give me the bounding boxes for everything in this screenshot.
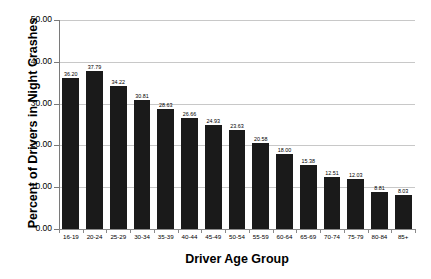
x-tick-mark <box>225 229 226 233</box>
x-tick-mark <box>59 229 60 233</box>
x-tick-label: 45-49 <box>201 233 225 241</box>
bar[interactable] <box>134 100 151 229</box>
y-tick-mark <box>54 104 59 105</box>
bar-slot: 34.22 <box>106 20 130 229</box>
x-tick-label: 35-39 <box>154 233 178 241</box>
bar[interactable] <box>395 195 412 229</box>
bar-slot: 18.00 <box>273 20 297 229</box>
gridline <box>59 229 415 230</box>
y-tick-mark <box>54 187 59 188</box>
bar-slot: 12.03 <box>344 20 368 229</box>
bar-value-label: 18.00 <box>273 147 297 153</box>
bar[interactable] <box>347 179 364 229</box>
bar-value-label: 37.79 <box>83 64 107 70</box>
y-tick-label: 10.00 <box>6 182 52 191</box>
x-tick-mark <box>178 229 179 233</box>
bar[interactable] <box>181 118 198 229</box>
y-tick-label: 30.00 <box>6 99 52 108</box>
x-tick-label: 30-34 <box>130 233 154 241</box>
x-tick-mark <box>106 229 107 233</box>
x-axis-tick-labels: 16-1920-2425-2930-3435-3940-4445-4950-54… <box>59 233 415 245</box>
bar[interactable] <box>205 125 222 229</box>
bar[interactable] <box>157 109 174 229</box>
y-tick-label: 0.00 <box>6 224 52 233</box>
x-tick-mark <box>83 229 84 233</box>
bar[interactable] <box>62 78 79 229</box>
x-tick-mark <box>201 229 202 233</box>
x-tick-label: 16-19 <box>59 233 83 241</box>
x-tick-mark <box>368 229 369 233</box>
bar-slot: 26.66 <box>178 20 202 229</box>
x-tick-label: 65-69 <box>296 233 320 241</box>
bar-value-label: 30.81 <box>130 93 154 99</box>
bar-slot: 12.51 <box>320 20 344 229</box>
bar-value-label: 8.81 <box>368 185 392 191</box>
bar-slot: 15.38 <box>296 20 320 229</box>
bar-chart: Percent of Drivers in Night Crashes 0.00… <box>0 0 431 279</box>
bar-slot: 8.03 <box>391 20 415 229</box>
bar[interactable] <box>276 154 293 229</box>
x-tick-label: 20-24 <box>83 233 107 241</box>
y-tick-label: 20.00 <box>6 140 52 149</box>
x-tick-label: 25-29 <box>106 233 130 241</box>
y-tick-mark <box>54 145 59 146</box>
bar[interactable] <box>371 192 388 229</box>
y-tick-label: 40.00 <box>6 57 52 66</box>
x-tick-label: 40-44 <box>178 233 202 241</box>
bar-slot: 20.58 <box>249 20 273 229</box>
y-tick-label: 50.00 <box>6 15 52 24</box>
bar-value-label: 28.63 <box>154 102 178 108</box>
x-tick-mark <box>130 229 131 233</box>
y-axis-tick-labels: 0.0010.0020.0030.0040.0050.00 <box>0 0 52 279</box>
bar-slot: 30.81 <box>130 20 154 229</box>
bar-value-label: 20.58 <box>249 136 273 142</box>
bar-slot: 36.20 <box>59 20 83 229</box>
x-tick-label: 50-54 <box>225 233 249 241</box>
x-tick-mark <box>154 229 155 233</box>
bar-value-label: 36.20 <box>59 71 83 77</box>
x-tick-mark <box>249 229 250 233</box>
bar-slot: 23.63 <box>225 20 249 229</box>
x-tick-mark <box>344 229 345 233</box>
bar-value-label: 23.63 <box>225 123 249 129</box>
x-axis-title: Driver Age Group <box>59 252 415 266</box>
x-tick-mark <box>391 229 392 233</box>
y-tick-mark <box>54 20 59 21</box>
x-tick-label: 85+ <box>391 233 415 241</box>
bar-slot: 8.81 <box>368 20 392 229</box>
x-tick-mark <box>415 229 416 233</box>
bar[interactable] <box>86 71 103 229</box>
x-tick-label: 70-74 <box>320 233 344 241</box>
bar[interactable] <box>300 165 317 229</box>
bar-value-label: 8.03 <box>391 188 415 194</box>
bar-slot: 37.79 <box>83 20 107 229</box>
x-tick-label: 75-79 <box>344 233 368 241</box>
bar[interactable] <box>229 130 246 229</box>
bar-value-label: 26.66 <box>178 111 202 117</box>
bar-slot: 24.93 <box>201 20 225 229</box>
bar-value-label: 12.03 <box>344 172 368 178</box>
bar-value-label: 34.22 <box>106 79 130 85</box>
bar-value-label: 15.38 <box>296 158 320 164</box>
x-tick-mark <box>296 229 297 233</box>
bar[interactable] <box>324 177 341 229</box>
x-tick-label: 80-84 <box>368 233 392 241</box>
bar-value-label: 24.93 <box>201 118 225 124</box>
bar[interactable] <box>110 86 127 229</box>
x-tick-label: 60-64 <box>273 233 297 241</box>
bar-value-label: 12.51 <box>320 170 344 176</box>
x-tick-label: 55-59 <box>249 233 273 241</box>
bar[interactable] <box>252 143 269 229</box>
bars-layer: 36.2037.7934.2230.8128.6326.6624.9323.63… <box>59 20 415 229</box>
y-tick-mark <box>54 62 59 63</box>
x-tick-mark <box>273 229 274 233</box>
x-tick-mark <box>320 229 321 233</box>
bar-slot: 28.63 <box>154 20 178 229</box>
